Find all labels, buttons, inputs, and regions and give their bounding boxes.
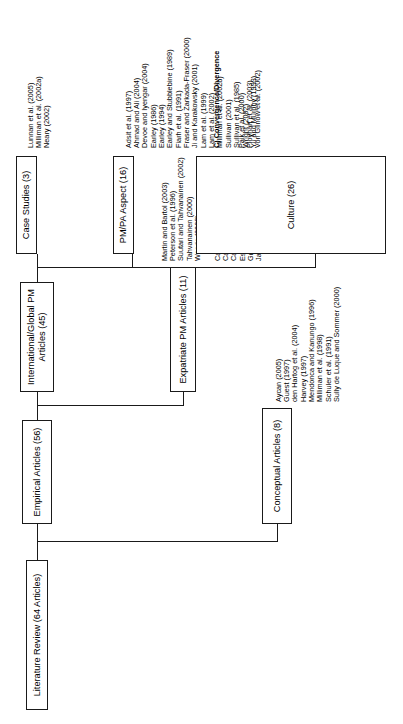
connector-intl-out: [37, 268, 38, 282]
node-pmpa-aspect: PM/PA Aspect (16): [113, 156, 134, 254]
node-literature-review-label: Literature Review (64 Articles): [32, 574, 43, 697]
node-pmpa-aspect-label: PM/PA Aspect (16): [118, 167, 129, 243]
connector-to-culture: [315, 254, 316, 268]
connector-to-empirical: [37, 524, 38, 542]
citations-culture-c-header: C) Convergence/Divergence: [213, 0, 221, 148]
tree-diagram-canvas: Literature Review (64 Articles) Empirica…: [0, 0, 403, 724]
connector-level4-spine: [37, 267, 315, 268]
connector-to-pmpa-aspect: [132, 254, 133, 268]
node-conceptual-articles-label: Conceptual Articles (8): [272, 420, 283, 512]
citations-culture-c: C) Convergence/Divergence Paik et al. (2…: [196, 0, 279, 148]
node-expatriate-pm-articles-label: Expatriate PM Articles (11): [178, 275, 189, 383]
connector-to-intl-global: [37, 392, 38, 406]
connector-to-case-studies: [37, 254, 38, 268]
node-intl-global-pm-articles-label: International/Global PM Articles (45): [26, 286, 48, 388]
node-empirical-articles-label: Empirical Articles (56): [32, 428, 43, 517]
diagram-rotation-wrapper: Literature Review (64 Articles) Empirica…: [0, 0, 403, 724]
connector-root-out: [37, 542, 38, 560]
node-culture-label: Culture (26): [286, 181, 297, 230]
connector-level3-spine: [37, 405, 183, 406]
connector-level2-spine: [37, 541, 277, 542]
connector-empirical-out: [37, 406, 38, 420]
node-literature-review: Literature Review (64 Articles): [26, 560, 48, 710]
citations-case-studies-list: Lunnan et al. (2005) Milliman et al. (20…: [27, 8, 52, 148]
connector-to-expatriate: [183, 392, 184, 406]
node-case-studies-label: Case Studies (3): [21, 171, 32, 239]
node-intl-global-pm-articles: International/Global PM Articles (45): [20, 282, 54, 392]
citations-case-studies: Lunnan et al. (2005) Milliman et al. (20…: [10, 8, 68, 148]
node-culture: Culture (26): [196, 156, 386, 254]
connector-to-conceptual: [277, 524, 278, 542]
node-empirical-articles: Empirical Articles (56): [22, 420, 52, 524]
node-conceptual-articles: Conceptual Articles (8): [262, 408, 292, 524]
node-case-studies: Case Studies (3): [16, 156, 37, 254]
node-expatriate-pm-articles: Expatriate PM Articles (11): [170, 267, 196, 392]
citations-culture-c-list: Paik et al. (2000) Ployhart et al. (2003…: [238, 0, 263, 148]
